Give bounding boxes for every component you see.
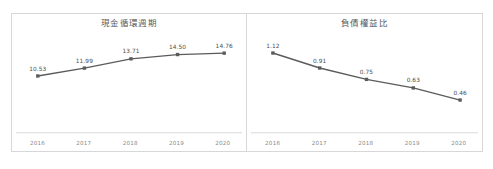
plot-area-cash-conversion-cycle: 10.5311.9913.7114.5014.76 (12, 30, 246, 151)
data-point-label: 0.63 (407, 77, 420, 84)
data-point-label: 10.53 (29, 66, 46, 73)
data-point-marker (36, 74, 39, 77)
chart-title-debt-to-equity-ratio: 負債權益比 (247, 17, 482, 29)
data-point-marker (176, 53, 179, 56)
data-point-marker (318, 66, 321, 69)
x-axis-tick: 2018 (107, 137, 153, 149)
data-point-label: 0.46 (453, 90, 466, 97)
data-point-marker (458, 98, 461, 101)
plot-area-debt-to-equity-ratio: 1.120.910.750.630.46 (247, 30, 482, 151)
x-axis-tick: 2017 (296, 137, 343, 149)
data-point-marker (412, 86, 415, 89)
data-point-marker (129, 57, 132, 60)
data-point-label: 13.71 (122, 48, 139, 55)
x-axis-tick: 2019 (153, 137, 199, 149)
series-markers-debt-to-equity-ratio (271, 51, 462, 101)
data-point-label: 0.91 (313, 58, 326, 65)
x-axis-tick: 2017 (61, 137, 107, 149)
data-point-label: 14.76 (216, 43, 233, 50)
data-point-marker (271, 51, 274, 54)
x-axis-tick: 2019 (389, 137, 436, 149)
x-axis-tick: 2020 (200, 137, 246, 149)
line-chart-svg-debt-to-equity-ratio (247, 30, 482, 151)
data-point-marker (365, 78, 368, 81)
data-point-label: 11.99 (76, 58, 93, 65)
x-axis-tick: 2016 (249, 137, 296, 149)
data-point-label: 0.75 (360, 69, 373, 76)
x-axis-tick: 2016 (14, 137, 60, 149)
x-axis-tick: 2018 (342, 137, 389, 149)
chart-panel-debt-to-equity-ratio[interactable]: 負債權益比 1.120.910.750.630.46 2016201720182… (247, 14, 482, 151)
x-axis-labels-cash-conversion-cycle: 20162017201820192020 (12, 137, 246, 149)
series-line-debt-to-equity-ratio (273, 53, 460, 100)
data-point-label: 14.50 (169, 44, 186, 51)
series-markers-cash-conversion-cycle (36, 51, 226, 77)
screenshot-root: 現金循環週期 10.5311.9913.7114.5014.76 2016201… (0, 0, 493, 169)
x-axis-labels-debt-to-equity-ratio: 20162017201820192020 (247, 137, 482, 149)
data-point-marker (223, 51, 226, 54)
x-axis-tick: 2020 (436, 137, 483, 149)
chart-panel-cash-conversion-cycle[interactable]: 現金循環週期 10.5311.9913.7114.5014.76 2016201… (12, 14, 247, 151)
data-point-label: 1.12 (266, 43, 279, 50)
series-line-cash-conversion-cycle (38, 53, 224, 76)
charts-frame: 現金循環週期 10.5311.9913.7114.5014.76 2016201… (11, 13, 483, 152)
data-point-marker (83, 66, 86, 69)
chart-title-cash-conversion-cycle: 現金循環週期 (12, 17, 246, 29)
